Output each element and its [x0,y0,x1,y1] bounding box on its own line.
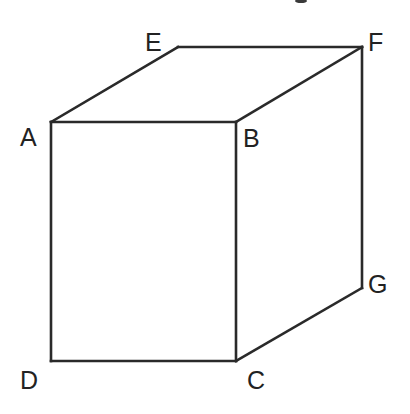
cut-off-text-fragment [295,0,307,3]
vertex-label-d: D [20,366,38,394]
vertex-label-g: G [368,270,387,298]
cube-diagram: E F A B G D C [0,0,410,414]
edge-AE [51,47,178,122]
vertex-label-c: C [247,366,265,394]
vertex-label-f: F [368,28,383,56]
vertex-label-a: A [20,123,37,151]
vertex-label-b: B [243,124,260,152]
edge-GC [236,288,362,361]
edge-FB [236,47,362,122]
vertex-label-e: E [145,28,162,56]
